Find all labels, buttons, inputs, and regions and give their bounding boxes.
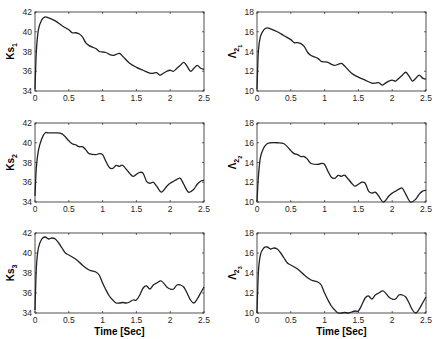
y-axis-label: Ks2 [5, 154, 18, 171]
y-tick-label: 12 [245, 66, 255, 76]
y-tick-label: 36 [23, 288, 33, 298]
x-tick-label: 0 [33, 93, 38, 103]
y-tick-label: 14 [245, 47, 255, 57]
x-tick-label: 2 [390, 204, 395, 214]
axes-box [257, 233, 426, 313]
y-tick-label: 38 [23, 158, 33, 168]
x-tick-label: 2.5 [198, 204, 210, 214]
y-tick-label: 10 [245, 308, 255, 318]
y-tick-label: 42 [23, 118, 33, 128]
x-tick-label: 2 [168, 315, 173, 325]
x-tick-label: 0 [255, 204, 260, 214]
x-tick-label: 1 [100, 315, 105, 325]
y-axis-label: Λ23 [227, 266, 243, 280]
y-tick-label: 16 [245, 138, 255, 148]
y-tick-label: 10 [245, 197, 255, 207]
y-axis-label: Λ21 [227, 45, 243, 59]
y-tick-label: 18 [245, 228, 255, 238]
x-tick-label: 0 [255, 315, 260, 325]
y-tick-label: 14 [245, 268, 255, 278]
x-tick-label: 0 [255, 93, 260, 103]
x-tick-label: 1 [322, 204, 327, 214]
x-tick-label: 2.5 [198, 315, 210, 325]
y-tick-label: 40 [23, 138, 33, 148]
y-tick-label: 16 [245, 27, 255, 37]
y-tick-label: 36 [23, 66, 33, 76]
axes-box [257, 12, 426, 91]
x-tick-label: 2 [390, 315, 395, 325]
subplot-4: 00.511.522.51012141618Λ22 [227, 118, 432, 214]
x-tick-label: 2.5 [420, 93, 432, 103]
y-tick-label: 34 [23, 308, 33, 318]
x-tick-label: 1.5 [130, 93, 142, 103]
y-axis-label: Ks3 [5, 265, 18, 282]
y-tick-label: 42 [23, 228, 33, 238]
x-tick-label: 2 [168, 204, 173, 214]
y-tick-label: 36 [23, 177, 33, 187]
x-tick-label: 1.5 [352, 315, 364, 325]
y-tick-label: 40 [23, 248, 33, 258]
y-axis-label: Λ22 [227, 156, 243, 170]
y-tick-label: 34 [23, 197, 33, 207]
subplot-2: 00.511.522.51012141618Λ21 [227, 7, 432, 103]
x-tick-label: 0 [33, 315, 38, 325]
x-tick-label: 0.5 [63, 315, 75, 325]
subplot-5: 00.511.522.53436384042Ks3Time [Sec] [5, 228, 210, 337]
y-tick-label: 42 [23, 7, 33, 17]
y-tick-label: 34 [23, 86, 33, 96]
x-tick-label: 1.5 [130, 204, 142, 214]
axes-box [257, 123, 426, 202]
x-axis-label: Time [Sec] [94, 326, 144, 337]
y-tick-label: 12 [245, 288, 255, 298]
x-tick-label: 0.5 [63, 93, 75, 103]
axes-box [35, 123, 204, 202]
x-tick-label: 0.5 [285, 93, 297, 103]
x-tick-label: 1.5 [130, 315, 142, 325]
x-tick-label: 1.5 [352, 204, 364, 214]
x-tick-label: 1 [100, 93, 105, 103]
x-tick-label: 1 [322, 315, 327, 325]
figure: 00.511.522.53436384042Ks100.511.522.5101… [0, 0, 438, 339]
y-tick-label: 14 [245, 158, 255, 168]
x-tick-label: 2.5 [198, 93, 210, 103]
x-tick-label: 0.5 [285, 315, 297, 325]
y-tick-label: 38 [23, 268, 33, 278]
y-axis-label: Ks1 [5, 43, 18, 60]
x-tick-label: 2.5 [420, 315, 432, 325]
x-tick-label: 0.5 [285, 204, 297, 214]
x-axis-label: Time [Sec] [316, 326, 366, 337]
x-tick-label: 0.5 [63, 204, 75, 214]
y-tick-label: 18 [245, 118, 255, 128]
x-tick-label: 1 [322, 93, 327, 103]
x-tick-label: 2.5 [420, 204, 432, 214]
y-tick-label: 12 [245, 177, 255, 187]
subplot-6: 00.511.522.51012141618Λ23Time [Sec] [227, 228, 432, 337]
y-tick-label: 40 [23, 27, 33, 37]
x-tick-label: 2 [390, 93, 395, 103]
x-tick-label: 0 [33, 204, 38, 214]
y-tick-label: 10 [245, 86, 255, 96]
y-tick-label: 16 [245, 248, 255, 258]
y-tick-label: 18 [245, 7, 255, 17]
x-tick-label: 1 [100, 204, 105, 214]
x-tick-label: 2 [168, 93, 173, 103]
subplot-3: 00.511.522.53436384042Ks2 [5, 118, 210, 214]
x-tick-label: 1.5 [352, 93, 364, 103]
y-tick-label: 38 [23, 47, 33, 57]
subplot-1: 00.511.522.53436384042Ks1 [5, 7, 210, 103]
